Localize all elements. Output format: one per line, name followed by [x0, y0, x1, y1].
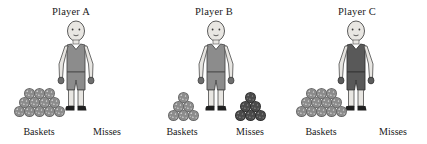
pictograph-figure: Player A — [0, 0, 427, 144]
pile-row — [290, 88, 352, 97]
ball-basket — [306, 106, 317, 117]
pile-row — [290, 97, 352, 106]
panel-player-b: Player B Basket — [143, 0, 285, 144]
baskets-pile-player-b — [154, 92, 212, 119]
ball-miss — [235, 110, 246, 121]
ball-basket — [34, 106, 45, 117]
baskets-pile-player-c — [290, 88, 352, 115]
ball-basket — [336, 106, 347, 117]
ball-basket — [178, 110, 189, 121]
ball-basket — [14, 106, 25, 117]
ball-basket — [24, 106, 35, 117]
misses-pile-player-b — [221, 92, 279, 119]
pile-row — [8, 97, 70, 106]
label-misses: Misses — [76, 126, 138, 137]
pile-row — [221, 110, 279, 119]
label-baskets: Baskets — [290, 126, 352, 137]
panel-title-player-a: Player A — [0, 6, 142, 17]
label-misses: Misses — [362, 126, 424, 137]
ball-miss — [255, 110, 266, 121]
ball-basket — [316, 106, 327, 117]
panel-player-c: Player C Baskets Misses — [286, 0, 427, 144]
ball-basket — [296, 106, 307, 117]
pile-row — [8, 88, 70, 97]
pile-row — [221, 101, 279, 110]
pile-row — [8, 106, 70, 115]
ball-miss — [245, 110, 256, 121]
pile-row — [221, 92, 279, 101]
pile-row — [154, 101, 212, 110]
ball-basket — [188, 110, 199, 121]
ball-basket — [326, 106, 337, 117]
ball-basket — [54, 106, 65, 117]
label-baskets: Baskets — [8, 126, 70, 137]
ball-basket — [168, 110, 179, 121]
label-misses: Misses — [219, 126, 281, 137]
ball-basket — [44, 106, 55, 117]
panel-title-player-b: Player B — [143, 6, 285, 17]
baskets-pile-player-a — [8, 88, 70, 115]
pile-row — [290, 106, 352, 115]
label-baskets: Baskets — [151, 126, 213, 137]
panel-title-player-c: Player C — [286, 6, 427, 17]
panel-player-a: Player A — [0, 0, 142, 144]
pile-row — [154, 110, 212, 119]
pile-row — [154, 92, 212, 101]
